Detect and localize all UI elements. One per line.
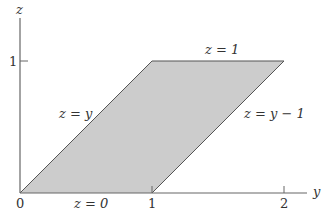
tick-label-y-2: 2 [280, 196, 288, 211]
tick-label-y-1: 1 [148, 196, 156, 211]
label-bottom-boundary: z = 0 [73, 196, 108, 211]
label-right-boundary: z = y − 1 [243, 106, 305, 121]
tick-label-y-0: 0 [16, 196, 24, 211]
axis-label-z: z [15, 2, 23, 17]
axis-label-y: y [312, 184, 321, 199]
region-diagram: z y 1 0 1 2 z = 1 z = 0 z = y z = y − 1 [0, 0, 331, 217]
tick-label-z-1: 1 [9, 54, 17, 69]
label-left-boundary: z = y [58, 106, 93, 121]
label-top-boundary: z = 1 [204, 42, 239, 57]
shaded-region [20, 61, 284, 193]
